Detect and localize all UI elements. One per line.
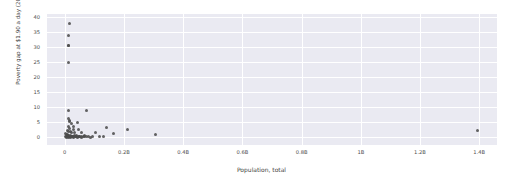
gridline-vertical xyxy=(124,14,125,145)
x-tick-label: 0.6B xyxy=(222,149,262,155)
data-point xyxy=(126,128,129,131)
gridline-horizontal xyxy=(47,122,497,123)
data-point xyxy=(85,109,88,112)
gridline-vertical xyxy=(242,14,243,145)
x-tick-label: 1.2B xyxy=(400,149,440,155)
gridline-vertical xyxy=(302,14,303,145)
data-point xyxy=(154,133,157,136)
y-tick-label: 10 xyxy=(0,104,40,110)
x-tick-label: 0.2B xyxy=(104,149,144,155)
y-tick-label: 30 xyxy=(0,44,40,50)
data-point xyxy=(102,135,105,138)
gridline-vertical xyxy=(420,14,421,145)
y-tick-label: 20 xyxy=(0,74,40,80)
gridline-horizontal xyxy=(47,47,497,48)
gridline-horizontal xyxy=(47,107,497,108)
x-tick-label: 0.4B xyxy=(163,149,203,155)
gridline-horizontal xyxy=(47,92,497,93)
data-point xyxy=(67,34,70,37)
data-point xyxy=(105,126,108,129)
gridline-vertical xyxy=(65,14,66,145)
gridline-vertical xyxy=(183,14,184,145)
gridline-horizontal xyxy=(47,17,497,18)
y-tick-label: 0 xyxy=(0,134,40,140)
data-point xyxy=(112,132,115,135)
scatter-chart-figure: Poverty gap at $1.90 a day (2011 PPP) (%… xyxy=(0,0,523,184)
data-point xyxy=(94,131,97,134)
y-tick-label: 5 xyxy=(0,119,40,125)
data-point xyxy=(67,109,70,112)
data-point xyxy=(91,135,94,138)
y-tick-label: 40 xyxy=(0,14,40,20)
data-point xyxy=(68,22,71,25)
data-point xyxy=(80,131,83,134)
y-tick-label: 15 xyxy=(0,89,40,95)
plot-area xyxy=(47,14,497,145)
x-tick-label: 0.8B xyxy=(282,149,322,155)
gridline-horizontal xyxy=(47,62,497,63)
gridline-vertical xyxy=(361,14,362,145)
data-point xyxy=(72,125,75,128)
gridline-horizontal xyxy=(47,32,497,33)
x-tick-label: 0 xyxy=(45,149,85,155)
gridline-horizontal xyxy=(47,137,497,138)
y-tick-label: 35 xyxy=(0,29,40,35)
data-point xyxy=(76,121,79,124)
y-tick-label: 25 xyxy=(0,59,40,65)
x-axis-title: Population, total xyxy=(0,166,523,173)
gridline-horizontal xyxy=(47,77,497,78)
x-tick-label: 1B xyxy=(341,149,381,155)
data-point xyxy=(67,61,70,64)
gridline-vertical xyxy=(479,14,480,145)
x-tick-label: 1.4B xyxy=(459,149,499,155)
